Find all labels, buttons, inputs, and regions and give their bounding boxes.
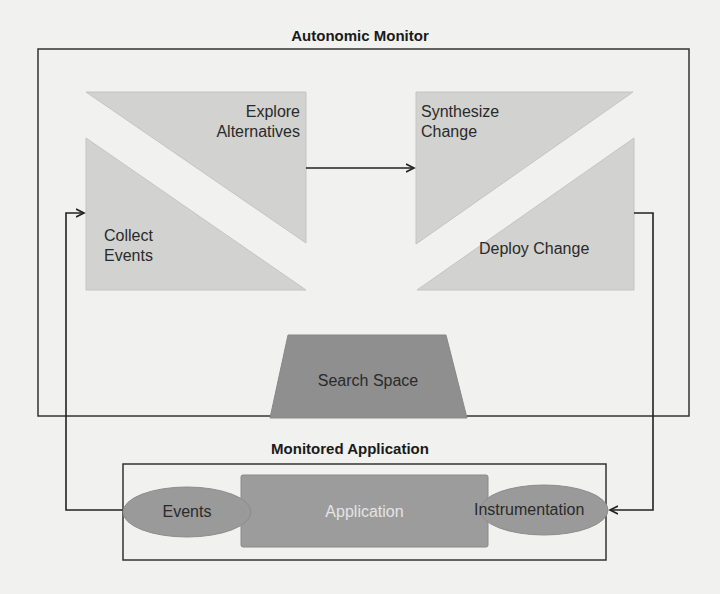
monitored-application-title: Monitored Application xyxy=(230,439,470,459)
collect-line1: Collect xyxy=(104,226,153,246)
explore-line2: Alternatives xyxy=(196,122,300,142)
collect-line2: Events xyxy=(104,246,153,266)
explore-line1: Explore xyxy=(196,102,300,122)
events-label: Events xyxy=(130,502,244,522)
instrumentation-label: Instrumentation xyxy=(474,500,584,520)
autonomic-monitor-diagram: Autonomic Monitor Monitored Application … xyxy=(0,0,720,594)
search-space-label: Search Space xyxy=(290,371,446,391)
collect-events-label: Collect Events xyxy=(104,226,153,266)
autonomic-monitor-title: Autonomic Monitor xyxy=(230,26,490,46)
synthesize-line1: Synthesize xyxy=(421,102,499,122)
explore-alternatives-label: Explore Alternatives xyxy=(196,102,300,142)
application-label: Application xyxy=(241,502,488,522)
synthesize-change-label: Synthesize Change xyxy=(421,102,499,142)
deploy-change-label: Deploy Change xyxy=(479,239,589,259)
synthesize-line2: Change xyxy=(421,122,499,142)
